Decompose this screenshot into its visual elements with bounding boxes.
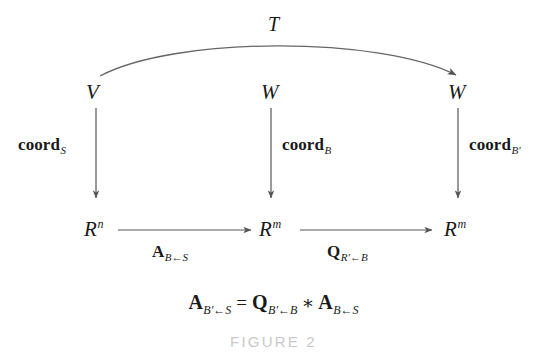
map-label-T: T bbox=[268, 14, 279, 34]
subscript-B-prime: B′ bbox=[512, 144, 521, 156]
multiplication-operator: ∗ bbox=[301, 292, 314, 313]
label-coord-B: coordB bbox=[282, 136, 331, 156]
matrix-symbol-A: A bbox=[152, 242, 164, 261]
matrix-symbol-Q: Q bbox=[327, 242, 340, 261]
sub-right-B: B bbox=[361, 251, 368, 263]
label-coord-B-prime: coordB′ bbox=[469, 136, 521, 156]
left-arrow-glyph: ← bbox=[172, 251, 183, 263]
left-arrow-glyph: ← bbox=[350, 251, 361, 263]
figure-container: T V W W coordS coordB coordB′ Rn Rm Rm A… bbox=[0, 0, 547, 352]
sub-left-B: B bbox=[165, 251, 172, 263]
sub-right-S: S bbox=[183, 251, 189, 263]
curved-arrow-T bbox=[100, 46, 456, 76]
node-Rm-middle: Rm bbox=[259, 218, 281, 240]
exponent-n: n bbox=[98, 217, 104, 231]
label-matrix-A-B-S: AB←S bbox=[152, 243, 188, 263]
equation-lhs: AB′←S bbox=[188, 292, 231, 313]
node-V: V bbox=[86, 82, 99, 103]
node-W-middle: W bbox=[261, 82, 279, 103]
equals-sign: = bbox=[236, 292, 247, 313]
equation-line: AB′←S=QB′←B∗AB←S bbox=[0, 291, 547, 318]
exponent-m-right: m bbox=[458, 217, 467, 231]
node-W-right: W bbox=[448, 82, 466, 103]
sub-left-R-prime: R′ bbox=[341, 251, 350, 263]
label-matrix-Q-Rprime-B: QR′←B bbox=[327, 243, 368, 263]
equation-rhs-A: AB←S bbox=[318, 292, 358, 313]
subscript-B: B bbox=[325, 144, 332, 156]
subscript-S: S bbox=[61, 144, 67, 156]
equation-rhs-Q: QB′←B bbox=[252, 292, 297, 313]
node-Rm-right: Rm bbox=[444, 218, 466, 240]
node-Rn: Rn bbox=[84, 218, 104, 240]
figure-caption: FIGURE 2 bbox=[0, 333, 547, 350]
exponent-m-middle: m bbox=[273, 217, 282, 231]
label-coord-S: coordS bbox=[18, 136, 66, 156]
